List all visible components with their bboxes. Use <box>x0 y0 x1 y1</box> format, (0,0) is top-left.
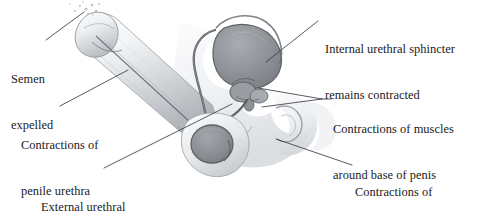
label-internal-urethral-sphincter-line1: Internal urethral sphincter <box>325 42 455 57</box>
label-base-of-penis-muscles-line1: Contractions of muscles <box>333 122 454 137</box>
label-rectal-sphincter-line1: Contractions of <box>355 185 433 200</box>
testis <box>191 125 233 163</box>
label-external-urethral-sphincter-line1: External urethral <box>41 200 125 215</box>
label-penile-urethra-line1: Contractions of <box>21 138 99 153</box>
label-external-urethral-sphincter: External urethral sphincter relaxes <box>41 170 125 216</box>
scrotum-and-testis <box>181 113 249 177</box>
ejaculation-anatomy-figure: Semen expelled Contractions of penile ur… <box>0 0 494 216</box>
urinary-bladder <box>213 16 282 89</box>
leader-penile-urethra <box>60 70 128 106</box>
label-semen-expelled-line1: Semen <box>11 72 53 87</box>
label-rectal-sphincter: Contractions of rectal sphincter <box>355 155 433 216</box>
